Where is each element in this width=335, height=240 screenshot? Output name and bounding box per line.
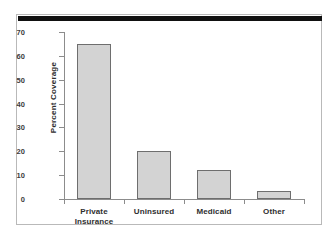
plot-area <box>64 32 304 199</box>
bar-other[interactable] <box>257 191 291 199</box>
x-tick-mark <box>64 200 65 204</box>
y-tick-label: 50 <box>0 76 25 84</box>
y-tick-label: 10 <box>0 172 25 180</box>
y-tick-label: 30 <box>0 124 25 132</box>
x-tick-mark <box>304 200 305 204</box>
x-tick-mark <box>244 200 245 204</box>
chart-figure-frame: Percent Coverage 010203040506070 Private… <box>16 14 322 225</box>
bar-uninsured[interactable] <box>137 151 171 199</box>
y-tick-label: 0 <box>0 196 25 204</box>
category-label-line: Other <box>236 207 312 217</box>
y-tick-label: 70 <box>0 29 25 37</box>
y-axis-title: Percent Coverage <box>49 38 58 158</box>
y-tick-label: 40 <box>0 100 25 108</box>
category-label-line: Insurance <box>56 217 132 227</box>
bar-medicaid[interactable] <box>197 170 231 199</box>
category-label-other: Other <box>236 207 312 217</box>
x-tick-mark <box>124 200 125 204</box>
y-tick-label: 60 <box>0 52 25 60</box>
top-rule-decoration <box>18 16 322 21</box>
bar-private-insurance[interactable] <box>77 44 111 199</box>
y-tick-label: 20 <box>0 148 25 156</box>
x-tick-mark <box>184 200 185 204</box>
